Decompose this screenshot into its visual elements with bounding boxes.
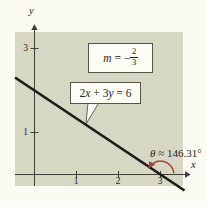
inclination-figure: m = −23 2x + 3y = 6 θ ≈ 146.31° 1 2 3 1 … — [0, 0, 207, 207]
callout-tail — [86, 103, 99, 125]
y-axis-label: y — [29, 6, 34, 17]
slope-label-box: m = −23 — [88, 43, 153, 73]
x-axis-label: x — [191, 160, 196, 171]
slope-symbol: m — [103, 52, 111, 64]
eq-rhs: 6 — [126, 87, 132, 99]
eq-equals: = — [113, 87, 125, 99]
theta-approx: ≈ — [155, 147, 167, 159]
slope-fraction: 23 — [130, 47, 137, 68]
x-tick-label-3: 3 — [150, 177, 170, 187]
theta-value: 146.31° — [167, 147, 202, 159]
eq-plus: + — [90, 87, 102, 99]
x-tick-label-1: 1 — [66, 177, 86, 187]
x-axis-arrowhead-icon — [185, 171, 191, 177]
y-tick-label-3: 3 — [9, 44, 28, 54]
y-axis-arrowhead-icon — [31, 24, 37, 30]
equation-label-box: 2x + 3y = 6 — [70, 82, 141, 104]
slope-equals: = — [112, 52, 124, 64]
fraction-denominator: 3 — [132, 58, 136, 68]
y-tick-label-1: 1 — [9, 128, 28, 138]
x-tick-label-2: 2 — [108, 177, 128, 187]
